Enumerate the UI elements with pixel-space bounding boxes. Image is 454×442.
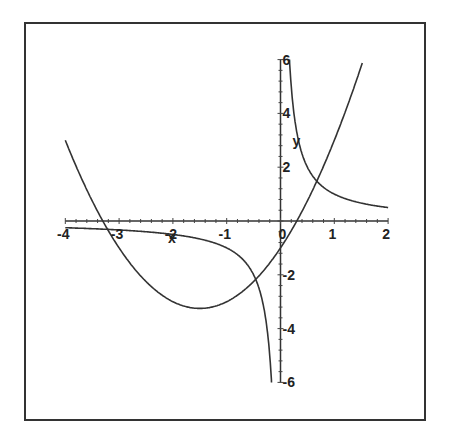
hyperbola-right-branch: [290, 60, 389, 208]
y-tick-label: -4: [283, 321, 296, 337]
y-tick-label: -2: [283, 267, 296, 283]
axes: [65, 60, 388, 383]
x-tick-label: 1: [328, 226, 336, 242]
y-tick-label: 4: [283, 105, 291, 121]
y-axis-label: y: [293, 133, 301, 149]
y-tick-label: 2: [283, 159, 291, 175]
x-tick-label: 2: [382, 226, 390, 242]
x-tick-label: -1: [218, 226, 231, 242]
hyperbola-left-branch: [65, 228, 271, 383]
x-tick-label: -4: [57, 226, 70, 242]
x-tick-label: -3: [111, 226, 124, 242]
plot-area: -4-3-2-1012-6-4-2246xy: [0, 0, 454, 442]
y-tick-label: 6: [283, 52, 291, 68]
x-axis-label: x: [168, 230, 176, 246]
x-tick-label: 0: [279, 226, 287, 242]
parabola-curve: [65, 63, 362, 308]
y-tick-label: -6: [283, 374, 296, 390]
